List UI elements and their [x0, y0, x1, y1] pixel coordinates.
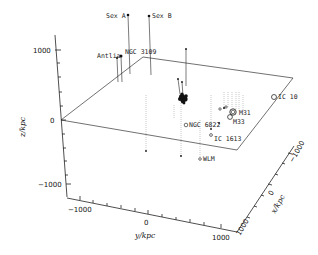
x-tick-0: 0: [267, 189, 276, 197]
z-axis: [55, 35, 67, 197]
y-tick-neg1000: −1000: [68, 206, 92, 214]
galaxy-antlia: Antlia: [97, 52, 121, 60]
galaxy-m31: M31: [230, 109, 251, 117]
y-axis-label: y/kpc: [134, 231, 156, 240]
galaxy-ic-1613: IC 1613: [210, 134, 242, 143]
svg-text:Sex B: Sex B: [152, 12, 172, 20]
svg-text:IC 1613: IC 1613: [214, 135, 241, 143]
svg-text:M31: M31: [239, 109, 251, 117]
svg-text:NGC 6822: NGC 6822: [189, 121, 220, 129]
svg-text:IC 10: IC 10: [278, 93, 298, 101]
svg-text:Antlia: Antlia: [97, 52, 121, 60]
z-tick-neg1000: −1000: [38, 181, 62, 189]
galaxy-ngc-3109: NGC 3109: [120, 48, 157, 58]
z-axis-label: z/kpc: [18, 116, 27, 138]
local-group-3d-plot: 1000 0 −1000 z/kpc −1000 0 1000 y/kpc 10…: [0, 0, 318, 255]
galaxy-ic-10: IC 10: [272, 93, 298, 101]
y-axis: [67, 198, 237, 232]
galaxy-sex-b: Sex B: [148, 12, 172, 20]
svg-text:M33: M33: [233, 118, 245, 126]
galaxy-ngc-6822: NGC 6822: [184, 121, 220, 129]
y-tick-1000: 1000: [212, 234, 230, 242]
galaxy-sex-a: Sex A: [106, 12, 129, 20]
milky-way-cluster: [178, 92, 188, 104]
x-tick-1000: 1000: [235, 218, 251, 237]
svg-text:Sex A: Sex A: [106, 12, 126, 20]
y-tick-0: 0: [144, 219, 148, 227]
z-tick-1000: 1000: [33, 47, 51, 55]
galaxy-wlm: WLM: [199, 155, 215, 163]
z-tick-0: 0: [50, 117, 54, 125]
svg-text:NGC 3109: NGC 3109: [125, 48, 156, 56]
reference-plane: [61, 57, 293, 150]
svg-text:WLM: WLM: [203, 155, 215, 163]
